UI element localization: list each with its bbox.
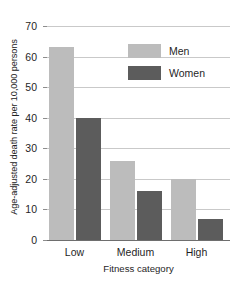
- x-tick-label-high: High: [186, 246, 208, 258]
- y-tick-mark-0: [43, 240, 47, 241]
- y-tick-mark-10: [43, 209, 47, 210]
- y-tick-label-50: 50: [0, 82, 37, 93]
- chart-legend: Men Women: [128, 42, 205, 86]
- gridline-y-70: [47, 26, 230, 27]
- gridline-y-20: [47, 179, 230, 180]
- gridline-y-40: [47, 118, 230, 119]
- legend-item-women: Women: [128, 64, 205, 81]
- bar-chart-figure: Age-adjusted death rate per 10,000 perso…: [0, 0, 237, 286]
- bar-high-men: [171, 179, 196, 240]
- y-tick-mark-20: [43, 179, 47, 180]
- legend-label-men: Men: [169, 45, 189, 57]
- bar-low-men: [49, 47, 74, 240]
- y-tick-label-10: 10: [0, 204, 37, 215]
- x-tick-label-medium: Medium: [117, 246, 154, 258]
- bar-medium-men: [110, 161, 135, 240]
- legend-swatch-men: [128, 44, 161, 58]
- y-tick-label-70: 70: [0, 21, 37, 32]
- bar-high-women: [198, 219, 223, 240]
- bar-low-women: [76, 118, 101, 240]
- legend-item-men: Men: [128, 42, 205, 59]
- y-tick-label-60: 60: [0, 51, 37, 62]
- gridline-y-50: [47, 87, 230, 88]
- legend-swatch-women: [128, 66, 161, 80]
- y-tick-label-40: 40: [0, 112, 37, 123]
- y-tick-mark-40: [43, 118, 47, 119]
- gridline-y-30: [47, 148, 230, 149]
- x-tick-label-low: Low: [65, 246, 84, 258]
- y-tick-label-0: 0: [0, 235, 37, 246]
- y-tick-mark-50: [43, 87, 47, 88]
- y-tick-mark-60: [43, 57, 47, 58]
- y-tick-label-20: 20: [0, 174, 37, 185]
- legend-label-women: Women: [169, 67, 205, 79]
- bar-medium-women: [137, 191, 162, 240]
- y-tick-mark-70: [43, 26, 47, 27]
- y-tick-mark-30: [43, 148, 47, 149]
- y-tick-label-30: 30: [0, 143, 37, 154]
- x-axis-title: Fitness category: [47, 263, 230, 274]
